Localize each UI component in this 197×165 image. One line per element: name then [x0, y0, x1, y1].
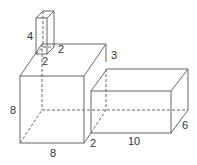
right-box	[84, 69, 188, 143]
small-box-height-label: 4	[27, 31, 33, 42]
cube-width-label: 8	[50, 148, 56, 159]
cube-depth-label: 3	[111, 50, 117, 61]
right-box-height-label: 6	[182, 120, 188, 131]
small-box-depth-label: 2	[58, 44, 64, 55]
composite-prism-figure	[0, 0, 197, 165]
cube-height-label: 8	[10, 105, 16, 116]
small-box	[36, 11, 54, 54]
small-box-width-label: 2	[42, 56, 48, 67]
right-box-length-label: 10	[128, 136, 140, 147]
gap-label: 2	[90, 138, 96, 149]
